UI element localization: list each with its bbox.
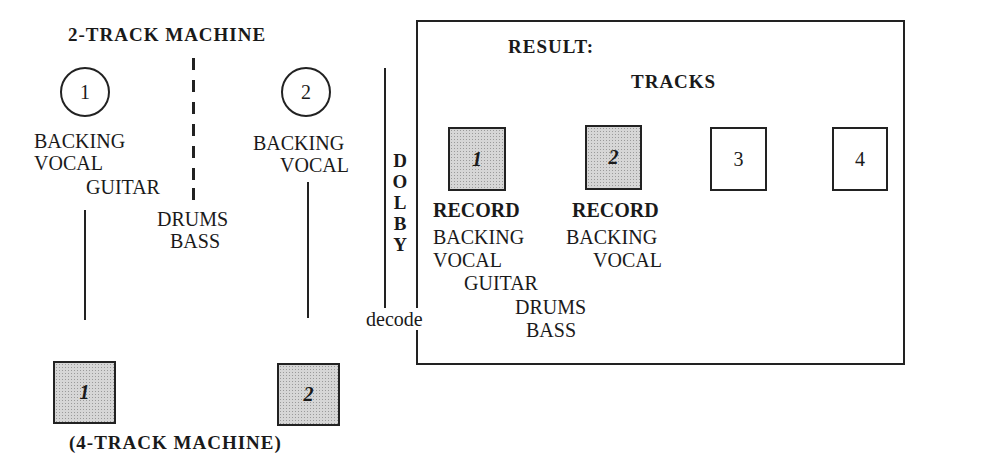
result-track-2-line-2: VOCAL	[593, 249, 662, 271]
result-track-1-line-4: DRUMS	[515, 296, 586, 318]
result-subtitle: TRACKS	[631, 71, 716, 93]
result-frame-left-top	[416, 20, 418, 308]
dolby-left-line	[384, 68, 386, 308]
dest-track-2: 2	[277, 363, 340, 426]
source-track-2-line-2: VOCAL	[280, 154, 349, 176]
result-track-4-number: 4	[855, 148, 865, 171]
result-track-3-number: 3	[734, 148, 744, 171]
result-track-2-line-1: BACKING	[566, 226, 657, 248]
center-label-bass: BASS	[170, 230, 220, 252]
result-track-1-action: RECORD	[433, 199, 520, 221]
result-track-2-number: 2	[609, 146, 619, 169]
result-track-1-line-1: BACKING	[433, 226, 524, 248]
center-label-drums: DRUMS	[157, 208, 228, 230]
result-track-2: 2	[585, 125, 642, 190]
result-track-1-number: 1	[472, 148, 482, 171]
dest-track-1: 1	[53, 361, 116, 424]
source-track-1-circle: 1	[60, 67, 110, 117]
source-track-1-number: 1	[80, 81, 90, 104]
result-track-1-line-2: VOCAL	[433, 249, 502, 271]
dest-track-2-number: 2	[304, 383, 314, 406]
source-track-1-line-3: GUITAR	[86, 176, 160, 198]
source-title: 2-TRACK MACHINE	[68, 24, 266, 46]
result-track-4: 4	[832, 127, 888, 191]
result-frame-bottom	[416, 363, 905, 365]
source-track-1-connector	[84, 210, 86, 320]
result-track-3: 3	[710, 127, 767, 191]
dolby-letter-l: L	[391, 192, 409, 213]
dolby-letter-d: D	[391, 150, 409, 171]
dolby-letter-b: B	[391, 213, 409, 234]
result-track-1-line-5: BASS	[526, 319, 576, 341]
source-track-2-connector	[307, 182, 309, 318]
dolby-letter-y: Y	[391, 234, 409, 255]
result-track-1: 1	[448, 127, 506, 191]
dolby-letter-o: O	[391, 171, 409, 192]
dolby-label: D O L B Y	[391, 150, 409, 255]
source-track-2-line-1: BACKING	[253, 132, 344, 154]
source-track-2-circle: 2	[281, 67, 331, 117]
source-track-2-number: 2	[301, 81, 311, 104]
dolby-mode: decode	[366, 308, 423, 330]
dest-track-1-number: 1	[80, 381, 90, 404]
result-track-1-line-3: GUITAR	[464, 272, 538, 294]
source-track-1-line-2: VOCAL	[34, 152, 103, 174]
result-frame-left-bottom	[416, 330, 418, 365]
result-title: RESULT:	[508, 36, 594, 58]
destination-title: (4-TRACK MACHINE)	[69, 432, 282, 454]
source-track-1-line-1: BACKING	[34, 130, 125, 152]
result-track-2-action: RECORD	[572, 199, 659, 221]
